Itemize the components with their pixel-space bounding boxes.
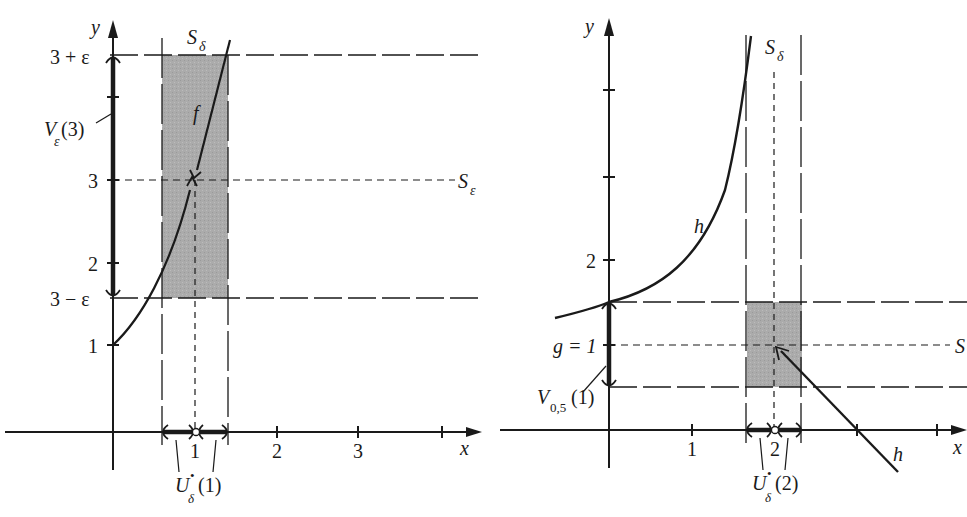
right-x-axis-label: x: [952, 436, 962, 458]
right-u-leader-2: [785, 438, 788, 470]
left-label-s-delta: S δ: [187, 26, 206, 54]
svg-text:•: •: [190, 468, 195, 483]
left-hole-point: [193, 429, 200, 436]
right-label-s-delta: S δ: [765, 36, 784, 64]
svg-text:0,5: 0,5: [550, 400, 566, 415]
right-y-axis-arrow-icon: [604, 18, 614, 36]
svg-text:•: •: [767, 466, 772, 481]
right-label-v: V 0,5 (1): [537, 386, 594, 415]
left-x-axis-arrow-icon: [466, 427, 482, 437]
right-curve-h-lower: [781, 351, 898, 472]
left-x-tick-3: 3: [353, 440, 363, 462]
left-x-axis-label: x: [459, 437, 469, 459]
left-x-tick-1: 1: [190, 440, 200, 462]
right-label-s-epsilon: S: [955, 335, 965, 357]
right-y-axis-label: y: [583, 15, 594, 38]
left-y-axis-arrow-icon: [108, 20, 118, 38]
svg-text:δ: δ: [188, 491, 195, 506]
svg-text:S: S: [765, 36, 775, 58]
left-label-lower: 3 − ε: [50, 288, 90, 310]
svg-text:S: S: [458, 170, 468, 192]
right-x-axis-arrow-icon: [951, 425, 967, 435]
left-v-leader: [96, 114, 111, 123]
svg-text:δ: δ: [199, 39, 206, 54]
left-label-u-delta: U • δ (1): [175, 468, 221, 506]
left-label-v-epsilon: V ε (3): [44, 118, 84, 149]
left-x-tick-2: 2: [272, 440, 282, 462]
figure: y x 3 + ε 3 − ε 3 2 1 1 2 3 S δ S ε f V …: [0, 0, 967, 517]
svg-text:ε: ε: [470, 183, 476, 198]
left-y-tick-3: 3: [88, 170, 98, 192]
left-y-tick-1: 1: [88, 335, 98, 357]
svg-text:(1): (1): [198, 474, 221, 497]
right-label-g: g = 1: [553, 335, 597, 358]
right-curve-h-upper: [555, 36, 751, 318]
right-u-leader-1: [760, 438, 763, 470]
svg-text:(2): (2): [775, 472, 798, 495]
left-y-tick-2: 2: [88, 253, 98, 275]
right-x-tick-2: 2: [770, 438, 780, 460]
right-hole-point: [772, 427, 779, 434]
right-label-u-delta: U • δ (2): [752, 466, 798, 505]
svg-text:(1): (1): [571, 386, 594, 409]
left-label-upper: 3 + ε: [50, 46, 90, 68]
svg-text:δ: δ: [777, 49, 784, 64]
svg-text:S: S: [955, 335, 965, 357]
svg-text:S: S: [187, 26, 197, 48]
left-y-axis-label: y: [89, 16, 100, 39]
right-x-tick-1: 1: [687, 438, 697, 460]
right-y-tick-2: 2: [586, 250, 596, 272]
right-chart: y x 2 g = 1 1 2 h h S δ S V 0,5 (1) U • …: [500, 15, 967, 505]
left-u-leader-1: [176, 440, 179, 472]
left-u-leader-2: [213, 440, 216, 472]
right-label-h-upper: h: [694, 215, 704, 237]
svg-text:δ: δ: [765, 490, 772, 505]
right-label-h-lower: h: [893, 443, 903, 465]
left-label-s-epsilon: S ε: [458, 170, 476, 198]
left-chart: y x 3 + ε 3 − ε 3 2 1 1 2 3 S δ S ε f V …: [5, 16, 482, 506]
svg-text:(3): (3): [61, 118, 84, 141]
svg-text:ε: ε: [54, 134, 60, 149]
